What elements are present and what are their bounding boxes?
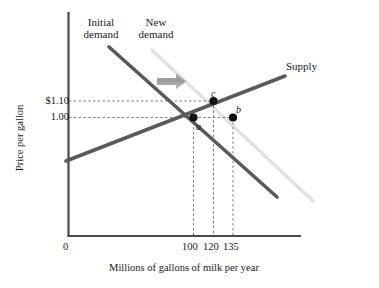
new-demand-label-line2: demand (130, 28, 182, 40)
point-label-b: b (236, 104, 241, 115)
y-tick-label-110: $1.10 (41, 95, 69, 107)
point-label-a: a (196, 121, 201, 132)
x-tick-label-120: 120 (203, 241, 219, 253)
guide-lines (69, 101, 233, 236)
supply-curve (66, 76, 285, 161)
supply-label: Supply (286, 60, 317, 72)
x-tick-label-135: 135 (223, 241, 239, 253)
y-tick-label-100: 1.00 (41, 111, 69, 123)
point-label-c: c (211, 88, 215, 99)
new-demand-label: New demand (130, 16, 182, 41)
x-tick-label-100: 100 (182, 241, 198, 253)
initial-demand-label: Initial demand (73, 16, 129, 41)
x-tick-label-0: 0 (63, 241, 68, 253)
new-demand-curve (152, 50, 313, 201)
initial-demand-label-line1: Initial (73, 16, 129, 28)
initial-demand-curve (109, 47, 277, 197)
supply-demand-chart: Initial demand New demand Supply $1.10 1… (0, 0, 379, 288)
y-axis-title: Price per gallon (14, 92, 26, 184)
new-demand-label-line1: New (130, 16, 182, 28)
x-axis-title: Millions of gallons of milk per year (68, 262, 300, 274)
initial-demand-label-line2: demand (73, 28, 129, 40)
